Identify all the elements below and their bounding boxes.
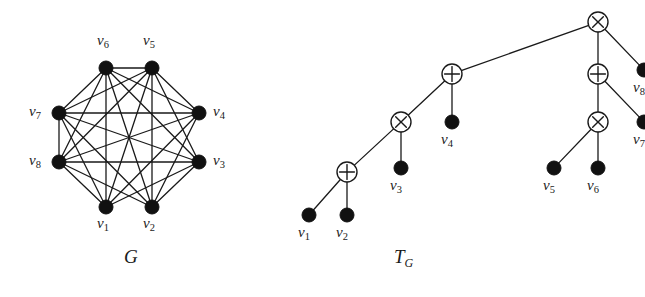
tree-edge-n1-n3 <box>408 80 446 116</box>
graph-edge-v6-v7 <box>59 68 106 113</box>
vertex-label-subscript: 2 <box>343 231 348 242</box>
vertex-label-subscript: 7 <box>640 138 645 149</box>
vertex-label-v7: v7 <box>29 104 41 119</box>
vertex-label-text: v <box>633 131 640 147</box>
tree-leaf-v7[interactable] <box>637 115 645 129</box>
vertex-label-v1: v1 <box>97 216 109 231</box>
vertex-label-v8: v8 <box>29 153 41 168</box>
graph-vertex-v7[interactable] <box>52 106 66 120</box>
tree-edge-n3-n5 <box>354 128 395 166</box>
tree-operator-n2-circled-plus[interactable] <box>588 64 608 84</box>
cotree-diagram <box>284 0 568 297</box>
vertex-label-subscript: 7 <box>36 110 41 121</box>
vertex-label-v1: v1 <box>298 225 310 240</box>
tree-leaf-v5[interactable] <box>547 161 561 175</box>
tree-leaf-v3[interactable] <box>394 161 408 175</box>
graph-panel: v1v2v3v4v5v6v7v8 G <box>0 0 284 297</box>
tree-operator-n0-circled-times[interactable] <box>588 12 608 32</box>
vertex-label-v8: v8 <box>633 80 645 95</box>
tree-caption: TG <box>394 247 413 266</box>
vertex-label-text: v <box>97 32 104 48</box>
vertex-label-subscript: 6 <box>104 39 109 50</box>
vertex-label-subscript: 4 <box>448 138 453 149</box>
vertex-label-v2: v2 <box>336 225 348 240</box>
graph-vertex-v8[interactable] <box>52 155 66 169</box>
graph-vertex-v2[interactable] <box>145 200 159 214</box>
tree-leaf-v1[interactable] <box>302 208 316 222</box>
vertex-label-v4: v4 <box>213 104 225 119</box>
graph-vertex-v5[interactable] <box>145 61 159 75</box>
vertex-label-text: v <box>543 177 550 193</box>
tree-operator-n5-circled-plus[interactable] <box>337 162 357 182</box>
vertex-label-v5: v5 <box>143 33 155 48</box>
vertex-label-v3: v3 <box>213 153 225 168</box>
tree-leaf-v4[interactable] <box>445 115 459 129</box>
tree-edge-n0-v8 <box>604 28 640 65</box>
tree-leaf-v8[interactable] <box>637 63 645 77</box>
graph-vertex-v3[interactable] <box>192 155 206 169</box>
vertex-label-text: v <box>587 177 594 193</box>
vertex-label-subscript: 5 <box>150 39 155 50</box>
vertex-label-subscript: 5 <box>550 184 555 195</box>
graph-edge-v4-v5 <box>152 68 199 113</box>
tree-leaf-v6[interactable] <box>591 161 605 175</box>
vertex-label-v6: v6 <box>97 33 109 48</box>
graph-caption: G <box>124 247 138 266</box>
vertex-label-v3: v3 <box>390 178 402 193</box>
vertex-label-text: v <box>633 79 640 95</box>
graph-edge-v1-v8 <box>59 162 106 207</box>
vertex-label-text: v <box>441 131 448 147</box>
vertex-label-text: v <box>390 177 397 193</box>
vertex-label-v6: v6 <box>587 178 599 193</box>
tree-edge-n4-v5 <box>558 129 592 164</box>
tree-operator-n4-circled-times[interactable] <box>588 112 608 132</box>
vertex-label-v5: v5 <box>543 178 555 193</box>
graph-edge-group <box>59 68 199 207</box>
tree-panel: v1v2v3v4v5v6v7v8 TG <box>284 0 568 297</box>
vertex-label-subscript: 1 <box>104 222 109 233</box>
tree-caption-subscript: G <box>405 256 414 270</box>
vertex-label-text: v <box>143 32 150 48</box>
graph-edge-v2-v3 <box>152 162 199 207</box>
vertex-label-text: v <box>298 224 305 240</box>
tree-operator-n3-circled-times[interactable] <box>391 112 411 132</box>
vertex-label-text: v <box>336 224 343 240</box>
vertex-label-text: v <box>213 103 220 119</box>
vertex-label-subscript: 2 <box>150 222 155 233</box>
vertex-label-subscript: 6 <box>594 184 599 195</box>
tree-edge-n0-n1 <box>460 25 589 71</box>
vertex-label-text: v <box>97 215 104 231</box>
vertex-label-subscript: 8 <box>640 86 645 97</box>
graph-vertex-v4[interactable] <box>192 106 206 120</box>
vertex-label-text: v <box>143 215 150 231</box>
vertex-label-subscript: 3 <box>220 159 225 170</box>
vertex-label-subscript: 4 <box>220 110 225 121</box>
vertex-label-subscript: 1 <box>305 231 310 242</box>
tree-caption-text: T <box>394 246 405 267</box>
graph-vertex-v6[interactable] <box>99 61 113 75</box>
vertex-label-subscript: 8 <box>36 159 41 170</box>
vertex-label-v2: v2 <box>143 216 155 231</box>
vertex-label-v7: v7 <box>633 132 645 147</box>
vertex-label-v4: v4 <box>441 132 453 147</box>
vertex-label-text: v <box>213 152 220 168</box>
graph-vertex-v1[interactable] <box>99 200 113 214</box>
vertex-label-text: v <box>29 103 36 119</box>
vertex-label-text: v <box>29 152 36 168</box>
vertex-label-subscript: 3 <box>397 184 402 195</box>
graph-diagram <box>0 0 284 297</box>
tree-leaf-v2[interactable] <box>340 208 354 222</box>
tree-operator-n1-circled-plus[interactable] <box>442 64 462 84</box>
tree-edge-n5-v1 <box>313 179 341 211</box>
